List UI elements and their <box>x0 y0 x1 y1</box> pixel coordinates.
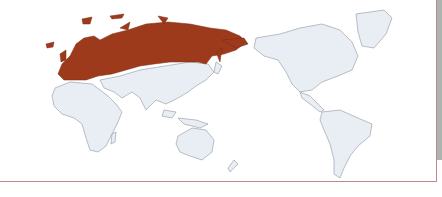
region-novaya-zemlya <box>120 22 130 30</box>
region-indonesia <box>178 118 208 128</box>
region-central-america <box>300 92 324 112</box>
region-north-america <box>254 24 358 92</box>
region-franz-josef <box>110 14 124 19</box>
region-iceland <box>46 42 54 48</box>
region-uk <box>60 50 66 62</box>
region-new-zealand <box>228 160 238 172</box>
region-australia <box>176 128 214 160</box>
page-edge <box>437 0 442 160</box>
region-greenland <box>356 10 392 48</box>
world-map <box>0 0 436 181</box>
region-south-america <box>320 110 372 178</box>
region-southeast-asia <box>162 110 176 118</box>
region-japan <box>214 62 222 74</box>
region-svalbard <box>82 17 92 24</box>
region-madagascar <box>111 132 116 144</box>
